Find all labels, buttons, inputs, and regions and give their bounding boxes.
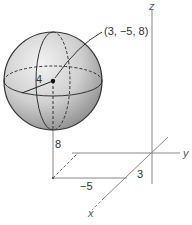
- x-projection-dashed: [53, 153, 78, 178]
- center-point: [51, 79, 55, 83]
- z-value-label: 8: [55, 138, 61, 150]
- radius-label: 4: [36, 73, 42, 85]
- x-axis-dashed: [92, 198, 104, 210]
- y-value-label: −5: [80, 180, 93, 192]
- z-axis-label: z: [148, 0, 155, 12]
- x-axis-label: x: [87, 207, 94, 219]
- sphere-diagram: (3, −5, 8) 4 z y x 8 −5 3: [0, 0, 192, 225]
- x-value-label: 3: [137, 168, 143, 180]
- x-axis: [104, 137, 168, 198]
- base-point: [52, 177, 54, 179]
- center-label: (3, −5, 8): [104, 25, 148, 37]
- y-axis-label: y: [182, 147, 190, 159]
